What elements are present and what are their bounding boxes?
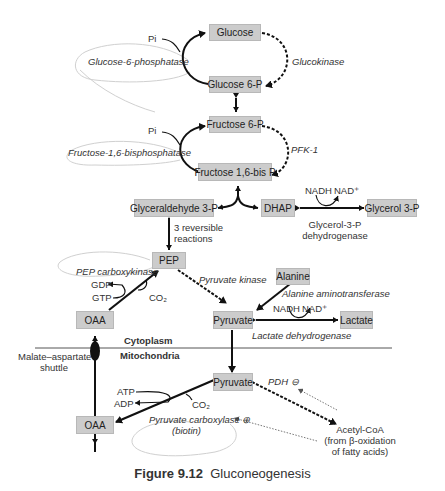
cofactor-pi-2: Pi [148,125,156,136]
fructose-6p-box: Fructose 6-P [209,116,261,133]
cofactor-gdp: GDP [91,279,112,290]
enzyme-pfk1: PFK-1 [291,144,318,155]
pyruvate-mitochondria-box: Pyruvate [213,373,253,391]
enzyme-fructose-16-bisphosphatase: Fructose-1,6-bisphosphatase [68,147,191,158]
enzyme-pyruvate-kinase: Pyruvate kinase [199,274,267,285]
enzyme-pyruvate-carboxylase: Pyruvate carboxylase ⊕ [149,414,250,425]
enzyme-lactate-dehydrogenase: Lactate dehydrogenase [252,330,351,341]
acetyl-coa-line3: of fatty acids) [320,446,400,457]
annotation-loops [58,44,236,456]
acetyl-coa-line1: Acetyl-CoA [320,424,400,435]
enzyme-pdh: PDH ⊖ [268,376,299,387]
figure-caption: Figure 9.12 Gluconeogenesis [0,466,445,481]
cofactor-nadh-1: NADH [305,185,332,196]
enzyme-glucokinase: Glucokinase [292,56,344,67]
enzyme-glycerol-3p-dh-line1: Glycerol-3-P [300,219,370,230]
oaa-mitochondria-box: OAA [76,416,114,434]
shuttle-label-line2: shuttle [18,362,90,373]
enzyme-alanine-aminotransferase: Alanine aminotransferase [282,288,390,299]
cofactor-co2-2: CO₂ [192,399,210,410]
cofactor-nad-1: NAD⁺ [334,185,359,196]
enzyme-glycerol-3p-dh-line2: dehydrogenase [300,230,370,241]
glucose-box: Glucose [209,24,261,41]
cofactor-adp: ADP [114,398,134,409]
cofactor-pi-1: Pi [148,33,156,44]
glucose-6p-box: Glucose 6-P [209,76,261,93]
figure-number: Figure 9.12 [134,466,203,481]
cofactor-nadh-2: NADH [273,303,300,314]
shuttle-label-line1: Malate–aspartate [18,351,90,362]
pyruvate-cytoplasm-box: Pyruvate [213,311,253,329]
enzyme-glucose-6-phosphatase: Glucose-6-phosphatase [88,56,189,67]
cofactor-nad-2: NAD⁺ [302,303,327,314]
acetyl-coa-line2: (from β-oxidation [320,435,400,446]
glycerol-3p-box: Glycerol 3-P [367,199,417,217]
oaa-cytoplasm-box: OAA [76,311,114,329]
glyceraldehyde-3p-box: Glyceraldehyde 3-P [134,199,214,217]
compartment-mitochondria: Mitochondria [120,350,180,361]
note-reversible-line2: reactions [174,233,213,244]
enzyme-pep-carboxykinase: PEP carboxykinase [76,266,158,277]
fructose-16bp-box: Fructose 1,6-bis P [198,163,272,181]
lactate-box: Lactate [340,311,373,329]
cofactor-atp: ATP [117,386,135,397]
compartment-cytoplasm: Cytoplasm [124,335,173,346]
cofactor-co2-1: CO₂ [149,292,167,303]
note-reversible-line1: 3 reversible [174,222,223,233]
alanine-box: Alanine [276,268,310,285]
figure-title: Gluconeogenesis [210,466,310,481]
cofactor-gtp: GTP [92,292,112,303]
enzyme-pyruvate-carboxylase-cofactor: (biotin) [172,425,201,436]
dhap-box: DHAP [261,199,295,217]
